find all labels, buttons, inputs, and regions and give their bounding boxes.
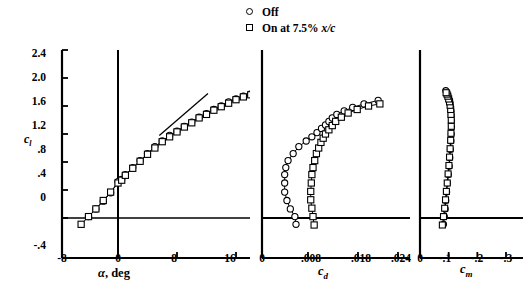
xtick-cd-018: .018 [344,252,378,264]
xtick-neg8: -8 [48,252,76,264]
xtick-cm-0: 0 [406,252,434,264]
xtick-cm-neg01: -.1 [431,252,459,264]
xtick-cd-0: 0 [248,252,276,264]
panel-moment-curve: 0 -.1 -.2 -.3 cm [410,0,523,295]
ytick-2-4: 2.4 [12,47,46,59]
ytick-0-8: .8 [12,143,46,155]
xtick-8: 8 [160,252,188,264]
ytick-0: 0 [12,191,46,203]
axis-label-cd: cd [318,264,328,281]
axis-label-cm: cm [460,262,473,279]
panel-lift-curve: cl 2.4 2.0 1.6 1.2 .8 .4 0 -.4 -8 0 8 16… [0,0,250,295]
ytick-neg-0-4: -.4 [12,239,46,251]
xtick-0: 0 [104,252,132,264]
moment-curve-plot [410,0,523,295]
drag-polar-plot [250,0,410,295]
axis-label-alpha: α, deg [98,266,130,281]
figure-root: Off On at 7.5% x/c cl 2.4 2.0 1.6 1.2 .8… [0,0,523,295]
ytick-1-6: 1.6 [12,95,46,107]
ytick-1-2: 1.2 [12,119,46,131]
xtick-cd-008: .008 [294,252,328,264]
xtick-16: 16 [216,252,244,264]
xtick-cm-neg03: -.3 [492,252,520,264]
ytick-2-0: 2.0 [12,71,46,83]
panel-drag-polar: 0 .008 .018 .024 cd [250,0,410,295]
ytick-0-4: .4 [12,167,46,179]
